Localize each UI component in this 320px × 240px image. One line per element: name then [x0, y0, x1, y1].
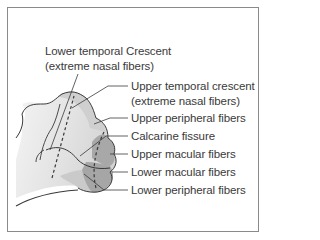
label-lower-macular-fibers: Lower macular fibers: [131, 165, 236, 179]
label-lower-temporal-crescent-sub: (extreme nasal fibers): [45, 59, 154, 73]
label-calcarine-fissure: Calcarine fissure: [131, 129, 215, 143]
label-lower-peripheral-fibers: Lower peripheral fibers: [131, 183, 246, 197]
label-upper-temporal-crescent-sub: (extreme nasal fibers): [131, 94, 240, 108]
label-upper-peripheral-fibers: Upper peripheral fibers: [131, 111, 246, 125]
label-lower-temporal-crescent: Lower temporal Crescent: [45, 44, 171, 58]
label-upper-temporal-crescent: Upper temporal crescent: [131, 79, 255, 93]
label-upper-macular-fibers: Upper macular fibers: [131, 147, 236, 161]
